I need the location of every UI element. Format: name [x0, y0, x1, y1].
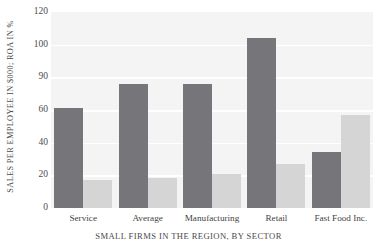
x-axis-tick-labels: ServiceAverageManufacturingRetailFast Fo… [51, 210, 373, 226]
y-axis-tick-label: 40 [18, 138, 48, 148]
bar-group [51, 12, 115, 208]
bar [183, 84, 212, 208]
bar [148, 178, 177, 208]
bar-groups [51, 12, 373, 208]
bar [119, 84, 148, 208]
plot-area [51, 12, 373, 208]
y-axis-tick-label: 90 [18, 73, 48, 83]
y-axis-title-container: SALES PER EMPLOYEE IN $000; ROA IN % [0, 0, 20, 212]
bar-group [244, 12, 308, 208]
bar-chart: SALES PER EMPLOYEE IN $000; ROA IN % 120… [0, 0, 377, 251]
x-axis-tick-label: Manufacturing [180, 210, 244, 226]
bar [54, 108, 83, 208]
y-axis-tick-label: 0 [18, 203, 48, 213]
bar [212, 174, 241, 208]
y-axis-tick-labels: 120100906040200 [18, 0, 48, 212]
x-axis-tick-label: Retail [244, 210, 308, 226]
x-axis-tick-label: Service [51, 210, 115, 226]
bar-group [180, 12, 244, 208]
bar-group [115, 12, 179, 208]
bar [276, 164, 305, 208]
bar [247, 38, 276, 208]
bar [341, 115, 370, 208]
x-axis-tick-label: Average [115, 210, 179, 226]
bar [312, 152, 341, 208]
x-axis-title: SMALL FIRMS IN THE REGION, BY SECTOR [0, 231, 377, 241]
x-axis-tick-label: Fast Food Inc. [309, 210, 373, 226]
y-axis-tick-label: 100 [18, 40, 48, 50]
bar-group [309, 12, 373, 208]
y-axis-title: SALES PER EMPLOYEE IN $000; ROA IN % [6, 20, 15, 192]
y-axis-tick-label: 120 [18, 7, 48, 17]
y-axis-tick-label: 60 [18, 105, 48, 115]
bar [83, 180, 112, 208]
y-axis-tick-label: 20 [18, 171, 48, 181]
